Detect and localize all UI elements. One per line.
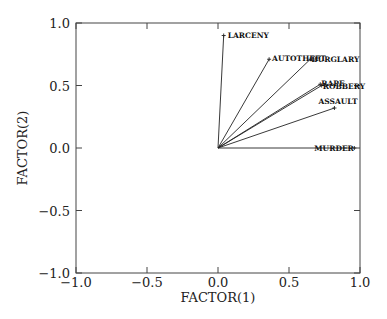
vector-assault (218, 108, 334, 148)
y-tick-labels: −1.0−0.50.00.51.0 (38, 16, 70, 281)
vector-larceny (218, 36, 224, 149)
vector-autotheft (218, 59, 269, 148)
vector-robbery (218, 86, 322, 149)
y-axis-title: FACTOR(2) (15, 111, 30, 186)
y-tick-label: 0.5 (49, 79, 70, 94)
x-tick-label: 0.5 (279, 275, 300, 290)
x-tick-label: 1.0 (350, 275, 371, 290)
x-tick-label: −0.5 (131, 275, 163, 290)
y-tick-label: 0.0 (49, 141, 70, 156)
vector-label-robbery: ROBBERY (323, 82, 366, 91)
x-tick-labels: −1.0−0.50.00.51.0 (60, 275, 370, 290)
factor-loading-chart: −1.0−0.50.00.51.0 −1.0−0.50.00.51.0 LARC… (0, 0, 387, 319)
vector-label-murder: MURDER (314, 144, 354, 153)
vector-label-burglary: BURGLARY (311, 55, 360, 64)
vector-label-larceny: LARCENY (228, 31, 270, 40)
x-axis-title: FACTOR(1) (181, 290, 256, 305)
y-tick-label: 1.0 (49, 16, 70, 31)
vector-labels: LARCENYAUTOTHEFTBURGLARYRAPEROBBERYASSAU… (228, 31, 366, 154)
vector-label-assault: ASSAULT (317, 97, 358, 106)
vector-burglary (218, 59, 310, 148)
x-tick-label: 0.0 (208, 275, 229, 290)
loading-vectors (218, 34, 356, 151)
y-tick-label: −0.5 (38, 204, 70, 219)
y-tick-label: −1.0 (38, 266, 70, 281)
